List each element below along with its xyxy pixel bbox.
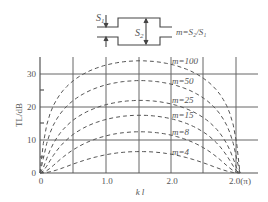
y-tick-0: 0 xyxy=(32,168,37,178)
y-tick-30: 30 xyxy=(27,69,37,79)
curve-m-4 xyxy=(40,152,240,173)
curve-labels: m=100m=50m=25m=15m=8m=4 xyxy=(172,56,199,157)
s2-label: S2 xyxy=(135,27,144,40)
x-tick-1: 1.0 xyxy=(101,176,113,186)
y-tick-10: 10 xyxy=(27,135,37,145)
curve-label: m=100 xyxy=(172,56,199,66)
y-tick-20: 20 xyxy=(27,102,37,112)
curve-label: m=50 xyxy=(172,76,194,86)
curve-m-100 xyxy=(40,61,240,173)
curve-label: m=8 xyxy=(172,127,190,137)
curve-label: m=15 xyxy=(172,110,194,120)
grid xyxy=(40,57,258,173)
tl-curves xyxy=(40,61,240,173)
y-axis-label: TL/dB xyxy=(14,103,24,127)
curve-m-50 xyxy=(40,81,240,173)
x-axis-label: k l xyxy=(136,187,145,197)
x-tick-0: 0 xyxy=(39,176,44,186)
x-tick-pi: 2.0(π) xyxy=(229,176,251,186)
curve-m-15 xyxy=(40,115,240,173)
area-ratio-formula: m=S₂/S₁ xyxy=(176,27,206,37)
s1-label: S1 xyxy=(96,12,105,25)
curve-label: m=25 xyxy=(172,95,194,105)
curve-label: m=4 xyxy=(172,147,190,157)
curve-m-8 xyxy=(40,132,240,173)
x-tick-2: 2.0 xyxy=(166,176,178,186)
chart-figure: S1 S2 m=S₂/S₁ 30 20 10 0 TL/dB 0 1.0 2.0… xyxy=(0,0,268,202)
